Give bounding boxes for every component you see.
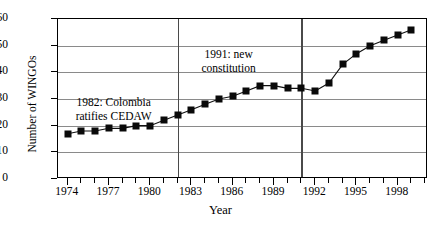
annotation-1982-cedaw: 1982: Colombia ratifies CEDAW (76, 95, 152, 123)
y-tick-mark (51, 178, 57, 179)
data-point-marker (147, 122, 154, 129)
annotation-1991-line2: constitution (201, 61, 255, 75)
x-tick-mark (397, 178, 398, 185)
data-point-marker (119, 125, 126, 132)
annotation-1991-constitution: 1991: new constitution (201, 47, 255, 75)
data-point-marker (339, 61, 346, 68)
data-point-marker (188, 106, 195, 113)
x-axis-title: Year (0, 203, 441, 218)
data-point-marker (298, 85, 305, 92)
x-tick-mark (190, 178, 191, 185)
data-point-marker (312, 88, 319, 95)
x-tick-mark (355, 178, 356, 185)
data-point-marker (325, 80, 332, 87)
data-point-marker (380, 37, 387, 44)
data-point-marker (367, 42, 374, 49)
data-point-marker (229, 93, 236, 100)
y-tick-label: 10 (0, 145, 8, 156)
data-point-marker (202, 101, 209, 108)
data-point-marker (284, 85, 291, 92)
y-tick-label: 30 (0, 92, 8, 103)
annotation-1982-line1: 1982: Colombia (76, 95, 152, 109)
plot-area: 1982: Colombia ratifies CEDAW 1991: new … (57, 18, 427, 178)
x-tick-mark (67, 178, 68, 185)
data-point-marker (270, 82, 277, 89)
data-point-marker (394, 32, 401, 39)
data-point-marker (243, 88, 250, 95)
data-point-marker (64, 130, 71, 137)
x-tick-mark (273, 178, 274, 185)
y-axis-title: Number of WINGOs (26, 24, 38, 184)
y-tick-label: 20 (0, 119, 8, 130)
data-point-marker (257, 82, 264, 89)
y-tick-label: 0 (0, 172, 8, 183)
x-tick-mark (108, 178, 109, 185)
annotation-1982-line2: ratifies CEDAW (76, 109, 152, 123)
data-point-marker (78, 128, 85, 135)
data-point-marker (215, 96, 222, 103)
data-point-marker (133, 122, 140, 129)
data-point-marker (353, 50, 360, 57)
y-tick-label: 50 (0, 39, 8, 50)
y-tick-label: 60 (0, 12, 8, 23)
annotation-1991-line1: 1991: new (201, 47, 255, 61)
x-tick-mark (314, 178, 315, 185)
y-tick-label: 40 (0, 65, 8, 76)
data-point-marker (408, 26, 415, 33)
x-tick-mark (232, 178, 233, 185)
data-point-marker (105, 125, 112, 132)
x-tick-mark (149, 178, 150, 185)
chart-container: Number of WINGOs Year 0102030405060 1974… (0, 0, 441, 227)
data-point-marker (160, 117, 167, 124)
data-point-marker (92, 128, 99, 135)
data-point-marker (174, 112, 181, 119)
x-tick-label: 1998 (372, 185, 422, 197)
